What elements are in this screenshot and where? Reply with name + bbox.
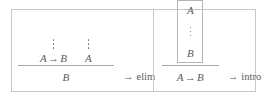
formula-antecedent: A — [40, 52, 47, 64]
subproof-wrapper: A B — [162, 0, 219, 65]
rule-name-elim: →elim — [114, 66, 155, 85]
rule-intro: A B A→B →intro — [162, 0, 261, 85]
implication-operator-icon: → — [228, 71, 242, 82]
vertical-dots-icon — [88, 36, 90, 52]
implication-operator-icon: → — [184, 71, 197, 83]
conclusion-formula: B — [63, 71, 70, 83]
implication-operator-icon: → — [47, 52, 60, 64]
premise-minor: A — [85, 36, 92, 64]
vertical-dots-icon — [53, 36, 55, 52]
derivation-intro: A B A→B — [162, 0, 219, 85]
subproof-result: B — [187, 47, 194, 59]
premise-minor-formula: A — [85, 52, 92, 64]
rule-name-text: intro — [241, 71, 261, 82]
panel-implication-elimination: A→B A B →elim — [12, 10, 153, 91]
subproof-box: A B — [177, 0, 203, 63]
subproof-assumption: A — [187, 4, 194, 16]
panel-implication-introduction: A B A→B →intro — [153, 10, 255, 91]
premises-elim: A→B A — [18, 36, 114, 65]
derivation-elim: A→B A B — [18, 36, 114, 85]
rule-elim: A→B A B →elim — [18, 36, 155, 85]
premise-major-formula: A→B — [40, 52, 67, 64]
rule-name-intro: →intro — [219, 66, 261, 85]
conclusion-formula: A→B — [177, 71, 204, 83]
inference-rules-figure: A→B A B →elim — [11, 9, 256, 92]
vertical-dots-icon — [190, 24, 192, 40]
premise-major: A→B — [40, 36, 67, 64]
formula-consequent: B — [60, 52, 67, 64]
implication-operator-icon: → — [123, 71, 137, 82]
conclusion-elim: B — [18, 66, 114, 85]
formula-antecedent: A — [177, 71, 184, 83]
formula-consequent: B — [197, 71, 204, 83]
conclusion-intro: A→B — [162, 66, 219, 85]
